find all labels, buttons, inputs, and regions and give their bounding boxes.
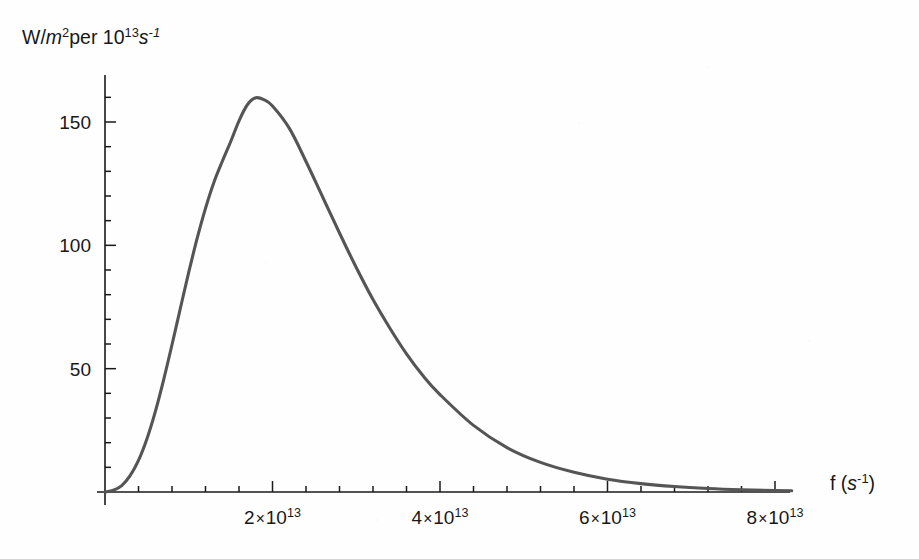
x-tick-exponent: 13: [454, 506, 468, 520]
x-tick-mantissa: 2: [244, 507, 255, 528]
y-axis-label-m: m: [46, 26, 62, 48]
y-tick-label: 50: [0, 359, 91, 378]
x-axis-label-s-exponent: -1: [857, 471, 868, 486]
multiplication-sign-icon: ×: [590, 510, 601, 527]
multiplication-sign-icon: ×: [255, 510, 266, 527]
y-axis-label-s-exponent: -1: [149, 25, 160, 40]
x-tick-base: 10: [266, 507, 287, 528]
y-axis-label-per: per 10: [69, 26, 124, 48]
x-tick-exponent: 13: [789, 506, 803, 520]
figure-container: W/m2per 1013s-1 f (s-1) 50 100 150 2×101…: [0, 0, 919, 559]
x-tick-label: 6×1013: [579, 508, 636, 527]
x-tick-mantissa: 8: [747, 507, 758, 528]
axes: [97, 75, 790, 505]
x-axis-label-f: f (: [830, 472, 847, 494]
x-tick-base: 10: [601, 507, 622, 528]
y-tick-label: 100: [0, 236, 91, 255]
x-axis-label: f (s-1): [830, 474, 875, 494]
y-axis-label-w: W/: [22, 26, 46, 48]
y-tick-label: 150: [0, 113, 91, 132]
y-axis-label-s: s: [139, 26, 149, 48]
x-tick-label: 2×1013: [244, 508, 301, 527]
spectral-curve: [105, 98, 792, 492]
x-axis-label-close-paren: ): [869, 472, 876, 494]
multiplication-sign-icon: ×: [757, 510, 768, 527]
x-tick-exponent: 13: [287, 506, 301, 520]
x-tick-label: 4×1013: [412, 508, 469, 527]
x-tick-mantissa: 6: [579, 507, 590, 528]
x-tick-base: 10: [768, 507, 789, 528]
y-axis-label-ten-exponent: 13: [125, 25, 139, 40]
x-tick-mantissa: 4: [412, 507, 423, 528]
plot-area: [0, 0, 919, 559]
multiplication-sign-icon: ×: [422, 510, 433, 527]
y-axis-label: W/m2per 1013s-1: [22, 28, 160, 48]
y-axis-ticks: [105, 97, 116, 467]
x-tick-exponent: 13: [622, 506, 636, 520]
x-tick-label: 8×1013: [747, 508, 804, 527]
x-axis-label-s: s: [847, 472, 857, 494]
x-tick-base: 10: [433, 507, 454, 528]
